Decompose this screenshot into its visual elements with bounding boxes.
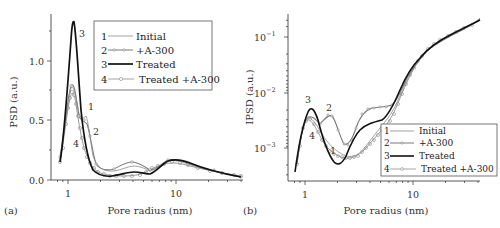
panel-a-y-ticks <box>47 31 51 180</box>
panel-a-legend-num-2: 2 <box>101 45 107 56</box>
panel-b-legend-label-treated: Treated <box>419 151 455 161</box>
panel-a-xtick-0: 1 <box>65 188 71 199</box>
panel-a-curve-label-2: 2 <box>93 126 99 137</box>
panel-b-ytick-1: 10 <box>254 88 266 99</box>
panel-a-legend-label-initial: Initial <box>136 31 166 42</box>
panel-b-legend-num-3: 3 <box>384 151 390 161</box>
panel-b-curve-label-4: 4 <box>309 130 315 141</box>
panel-a-legend-num-1: 1 <box>101 31 107 42</box>
panel-a-xtick-1: 10 <box>170 188 182 199</box>
figure: 0.0 0.5 1.0 1 10 PSD (a.u.) Pore radius … <box>0 0 500 228</box>
panel-b-ytick-1-exp: −2 <box>266 86 276 94</box>
panel-a-curve-label-3: 3 <box>79 28 85 39</box>
panel-a-ytick-0: 0.0 <box>29 175 44 186</box>
panel-b-legend-label-a300: +A-300 <box>419 138 454 148</box>
panel-b-ytick-0-exp: −1 <box>266 30 276 38</box>
panel-b-legend-marker-treated-a300 <box>401 168 404 171</box>
panel-a-legend-label-treated: Treated <box>136 59 176 70</box>
panel-a-legend-label-treated-a300: Treated +A-300 <box>139 74 220 85</box>
panel-a-ytick-2: 1.0 <box>29 56 44 67</box>
panel-a-curve-a300 <box>60 85 241 177</box>
panel-b-curve-label-3: 3 <box>305 94 311 105</box>
panel-b-legend-num-1: 1 <box>384 126 390 136</box>
panel-a-markers-treated-a300 <box>58 90 242 177</box>
panel-b-legend: 1 Initial 2 +A-300 3 Treated 4 Treated +… <box>381 124 497 176</box>
panel-a-legend-label-a300: +A-300 <box>136 45 174 56</box>
panel-a-legend: 1 Initial 2 +A-300 3 Treated 4 Treated +… <box>94 21 220 90</box>
panel-a-legend-marker-treated-a300 <box>119 77 122 80</box>
panel-b-xtick-0: 1 <box>302 189 308 200</box>
panel-b-legend-label-initial: Initial <box>419 126 446 136</box>
panel-b-curve-label-1: 1 <box>330 145 336 156</box>
panel-b-y-ticks <box>284 20 288 175</box>
panel-b-xlabel: Pore radius (nm) <box>343 205 428 216</box>
panel-a-legend-num-3: 3 <box>101 59 107 70</box>
panel-b-ytick-2-exp: −3 <box>266 141 276 149</box>
panel-a-label: (a) <box>4 205 18 216</box>
panel-b-legend-marker-a300 <box>401 142 403 144</box>
panel-a: 0.0 0.5 1.0 1 10 PSD (a.u.) Pore radius … <box>4 14 243 216</box>
panel-a-curve-label-1: 1 <box>88 101 94 112</box>
panel-a-markers-a300 <box>59 85 242 178</box>
panel-a-legend-num-4: 4 <box>101 74 107 85</box>
panel-a-legend-marker-a300-2 <box>123 49 125 51</box>
panel-b-legend-num-2: 2 <box>384 138 390 148</box>
panel-b-ytick-2: 10 <box>254 143 266 154</box>
panel-b-x-ticks <box>295 181 479 185</box>
panel-b-xtick-1: 10 <box>407 189 419 200</box>
panel-b-legend-num-4: 4 <box>384 164 390 174</box>
panel-a-xlabel: Pore radius (nm) <box>107 205 192 216</box>
panel-a-x-ticks <box>58 180 242 184</box>
panel-a-curve-label-4: 4 <box>73 138 79 149</box>
panel-b-label: (b) <box>243 205 257 216</box>
panel-a-ytick-1: 0.5 <box>29 115 44 126</box>
panel-b-ytick-0: 10 <box>254 32 266 43</box>
panel-b-ylabel: IPSD (a.u.) <box>244 69 255 124</box>
panel-b: 10 −1 10 −2 10 −3 1 10 IPSD (a.u.) Pore … <box>243 14 497 216</box>
panel-a-ylabel: PSD (a.u.) <box>8 76 19 127</box>
panel-b-curve-label-2: 2 <box>326 102 332 113</box>
panel-b-legend-label-treated-a300: Treated +A-300 <box>421 164 494 174</box>
panel-a-legend-marker-a300 <box>113 49 115 51</box>
